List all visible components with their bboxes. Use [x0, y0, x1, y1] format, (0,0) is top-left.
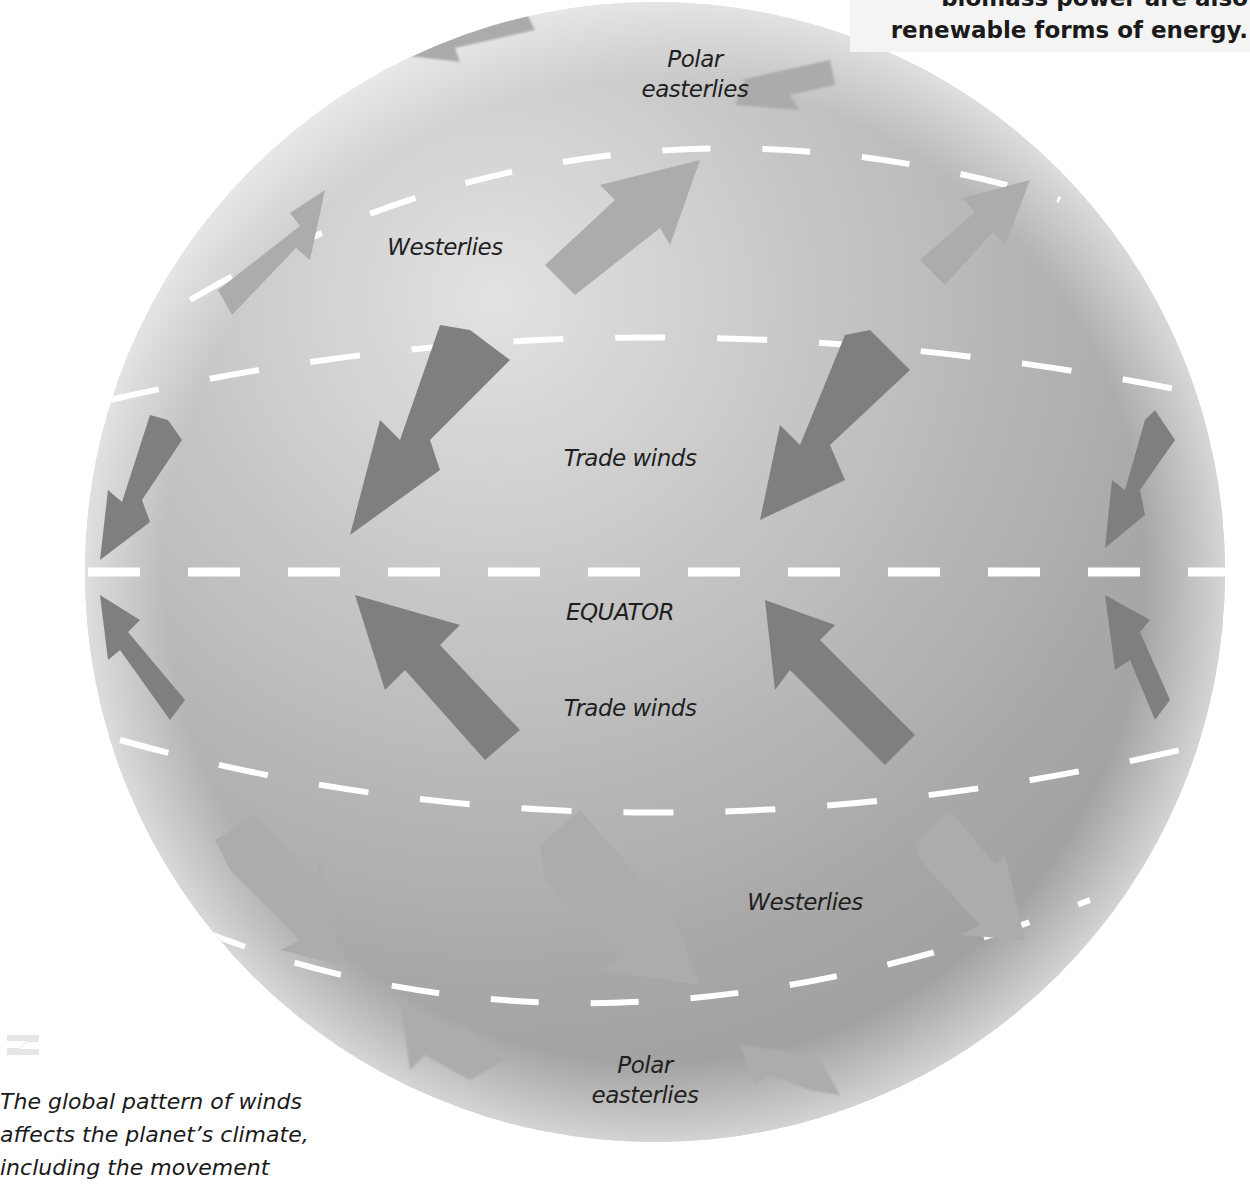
sidebar-note: biomass power are also renewable forms o…: [850, 0, 1250, 52]
label-westerlies-south: Westerlies: [725, 887, 885, 917]
globe-illustration: [0, 0, 1250, 1186]
caption-line: The global pattern of winds: [0, 1085, 360, 1118]
label-westerlies-north: Westerlies: [365, 232, 525, 262]
label-text: Polar: [560, 1050, 730, 1080]
label-trade-winds-south: Trade winds: [555, 693, 705, 723]
sidebar-note-line: biomass power are also: [850, 0, 1250, 14]
caption-arrow-icon: [5, 1033, 45, 1057]
label-trade-winds-north: Trade winds: [555, 443, 705, 473]
caption-line: affects the planet’s climate,: [0, 1118, 360, 1151]
label-polar-easterlies-north: Polar easterlies: [610, 44, 780, 104]
label-text: easterlies: [560, 1080, 730, 1110]
caption-line: including the movement: [0, 1151, 360, 1184]
wind-pattern-diagram: Polar easterlies Westerlies Trade winds …: [0, 0, 1250, 1186]
label-text: Polar: [610, 44, 780, 74]
label-text: easterlies: [610, 74, 780, 104]
label-equator: EQUATOR: [560, 597, 680, 627]
sidebar-note-line: renewable forms of energy.: [850, 14, 1250, 46]
figure-caption: The global pattern of winds affects the …: [0, 1085, 360, 1184]
label-polar-easterlies-south: Polar easterlies: [560, 1050, 730, 1110]
